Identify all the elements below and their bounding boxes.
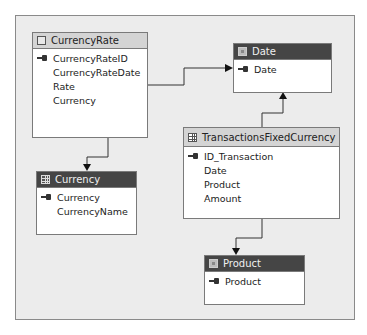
table-header[interactable]: Currency [37,172,136,188]
key-icon [37,55,48,61]
table-product[interactable]: Product Product [204,255,305,305]
column-row[interactable]: CurrencyName [37,204,136,218]
table-header[interactable]: CurrencyRate [33,33,147,49]
table-icon [41,175,50,184]
table-date[interactable]: Date Date [233,43,332,93]
relationship-currencyrate-currency [87,137,108,166]
column-row[interactable]: ID_Transaction [184,149,339,163]
column-row[interactable]: CurrencyRateID [33,51,147,65]
view-icon [37,36,46,45]
dimension-icon [238,47,247,56]
table-header[interactable]: Product [205,256,304,272]
column-row[interactable]: Date [184,163,339,177]
table-header[interactable]: TransactionsFixedCurrency [184,128,339,147]
column-row[interactable]: Currency [37,190,136,204]
column-row[interactable]: CurrencyRateDate [33,65,147,79]
key-icon [41,194,52,200]
column-row[interactable]: Rate [33,79,147,93]
arrow-head-icon [83,164,91,171]
column-row[interactable]: Currency [33,93,147,107]
dimension-icon [209,259,218,268]
arrow-head-icon [279,92,287,99]
table-title: Currency [55,174,100,185]
key-icon [238,66,249,72]
table-currency[interactable]: Currency Currency CurrencyName [36,171,137,235]
table-title: CurrencyRate [51,35,119,46]
table-title: Product [223,258,261,269]
relationship-transactions-date [262,98,283,127]
column-row[interactable]: Product [184,177,339,191]
table-icon [188,133,197,142]
column-row[interactable]: Date [234,62,331,76]
table-title: TransactionsFixedCurrency [202,132,335,143]
column-row[interactable]: Amount [184,191,339,205]
table-currencyrate[interactable]: CurrencyRate CurrencyRateID CurrencyRate… [32,32,148,138]
key-icon [188,153,199,159]
relationship-transactions-product [236,218,262,249]
table-transactionsfixedcurrency[interactable]: TransactionsFixedCurrency ID_Transaction… [183,127,340,219]
arrow-head-icon [225,64,233,72]
relationship-currencyrate-date [147,68,227,85]
arrow-head-icon [232,248,240,255]
key-icon [209,278,220,284]
column-row[interactable]: Product [205,274,304,288]
table-header[interactable]: Date [234,44,331,60]
table-title: Date [252,46,276,57]
